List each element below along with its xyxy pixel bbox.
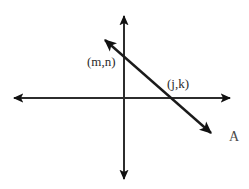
point-label-mn: (m,n) — [87, 55, 116, 68]
figure-canvas — [0, 0, 249, 189]
geometry-figure: (m,n) (j,k) A — [0, 0, 249, 189]
line-label-a: A — [229, 130, 239, 144]
point-label-jk: (j,k) — [167, 77, 189, 90]
line-a-segment — [105, 40, 211, 133]
